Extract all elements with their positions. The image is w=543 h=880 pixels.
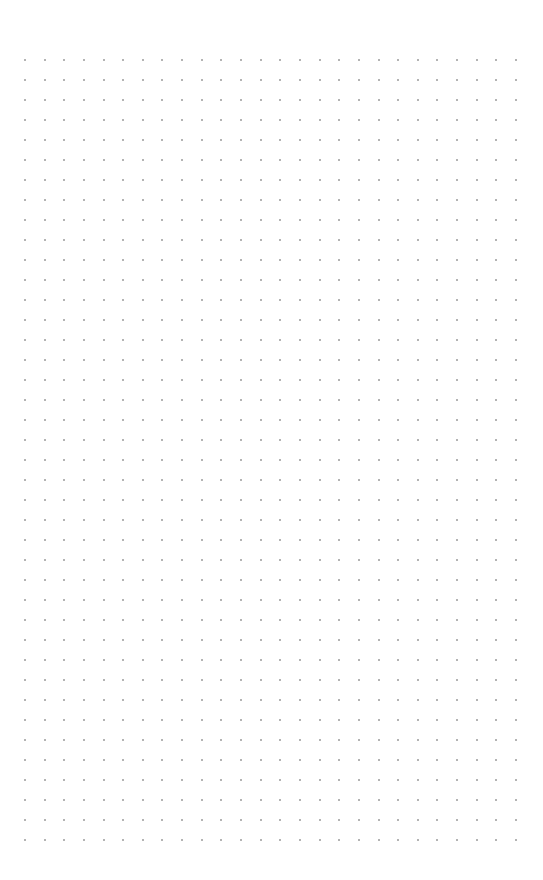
grid-dot: [24, 659, 26, 661]
grid-dot: [122, 459, 124, 461]
grid-dot: [456, 439, 458, 441]
grid-dot: [240, 839, 242, 841]
grid-dot: [122, 779, 124, 781]
grid-dot: [181, 419, 183, 421]
grid-dot: [142, 459, 144, 461]
grid-dot: [260, 439, 262, 441]
grid-dot: [378, 79, 380, 81]
grid-dot: [201, 139, 203, 141]
grid-dot: [103, 579, 105, 581]
grid-dot: [436, 419, 438, 421]
grid-dot: [279, 679, 281, 681]
grid-dot: [83, 759, 85, 761]
grid-dot: [142, 239, 144, 241]
grid-dot: [476, 619, 478, 621]
grid-dot: [417, 459, 419, 461]
grid-dot: [122, 99, 124, 101]
grid-dot: [397, 219, 399, 221]
grid-dot: [44, 79, 46, 81]
grid-dot: [260, 459, 262, 461]
grid-dot: [299, 779, 301, 781]
grid-dot: [495, 499, 497, 501]
grid-dot: [397, 499, 399, 501]
grid-dot: [515, 439, 517, 441]
grid-dot: [299, 99, 301, 101]
grid-dot: [220, 719, 222, 721]
grid-dot: [338, 299, 340, 301]
grid-dot: [201, 419, 203, 421]
grid-dot: [24, 699, 26, 701]
grid-dot: [319, 299, 321, 301]
grid-dot: [161, 759, 163, 761]
grid-dot: [83, 219, 85, 221]
grid-dot: [220, 679, 222, 681]
grid-dot: [456, 799, 458, 801]
grid-dot: [220, 519, 222, 521]
grid-dot: [161, 219, 163, 221]
grid-dot: [142, 259, 144, 261]
grid-dot: [63, 799, 65, 801]
grid-dot: [378, 619, 380, 621]
grid-dot: [358, 419, 360, 421]
grid-dot: [142, 219, 144, 221]
grid-dot: [220, 459, 222, 461]
grid-dot: [456, 459, 458, 461]
grid-dot: [63, 539, 65, 541]
grid-dot: [83, 579, 85, 581]
grid-dot: [142, 419, 144, 421]
grid-dot: [24, 59, 26, 61]
grid-dot: [456, 339, 458, 341]
grid-dot: [358, 579, 360, 581]
grid-dot: [319, 419, 321, 421]
grid-dot: [260, 379, 262, 381]
grid-dot: [240, 619, 242, 621]
grid-dot: [417, 199, 419, 201]
grid-dot: [44, 199, 46, 201]
grid-dot: [240, 79, 242, 81]
grid-dot: [240, 719, 242, 721]
grid-dot: [122, 799, 124, 801]
grid-dot: [436, 279, 438, 281]
grid-dot: [24, 359, 26, 361]
grid-dot: [456, 779, 458, 781]
grid-dot: [279, 159, 281, 161]
grid-dot: [338, 419, 340, 421]
grid-dot: [436, 259, 438, 261]
grid-dot: [220, 819, 222, 821]
grid-dot: [122, 79, 124, 81]
grid-dot: [161, 799, 163, 801]
grid-dot: [515, 319, 517, 321]
grid-dot: [83, 259, 85, 261]
grid-dot: [456, 279, 458, 281]
grid-dot: [161, 839, 163, 841]
grid-dot: [103, 259, 105, 261]
grid-dot: [495, 659, 497, 661]
grid-dot: [240, 379, 242, 381]
grid-dot: [142, 739, 144, 741]
grid-dot: [260, 659, 262, 661]
grid-dot: [456, 759, 458, 761]
grid-dot: [417, 599, 419, 601]
grid-dot: [436, 319, 438, 321]
grid-dot: [44, 639, 46, 641]
grid-dot: [83, 59, 85, 61]
grid-dot: [515, 159, 517, 161]
grid-dot: [397, 619, 399, 621]
grid-dot: [397, 119, 399, 121]
grid-dot: [201, 639, 203, 641]
grid-dot: [103, 539, 105, 541]
grid-dot: [181, 539, 183, 541]
grid-dot: [83, 459, 85, 461]
grid-dot: [260, 739, 262, 741]
grid-dot: [319, 59, 321, 61]
grid-dot: [63, 739, 65, 741]
grid-dot: [358, 59, 360, 61]
grid-dot: [142, 59, 144, 61]
grid-dot: [24, 599, 26, 601]
grid-dot: [417, 119, 419, 121]
grid-dot: [103, 659, 105, 661]
grid-dot: [83, 719, 85, 721]
grid-dot: [476, 199, 478, 201]
grid-dot: [378, 459, 380, 461]
grid-dot: [279, 599, 281, 601]
